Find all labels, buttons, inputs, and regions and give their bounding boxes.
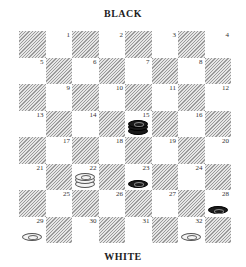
square-number: 1: [67, 31, 71, 39]
dark-square: [125, 190, 152, 217]
square-15[interactable]: 15: [125, 111, 152, 138]
square-number: 19: [169, 137, 176, 145]
black-piece[interactable]: [128, 164, 148, 190]
square-26[interactable]: 26: [99, 190, 126, 217]
square-number: 31: [143, 217, 150, 225]
dark-square: [125, 137, 152, 164]
square-10[interactable]: 10: [99, 84, 126, 111]
square-number: 8: [199, 58, 203, 66]
square-25[interactable]: 25: [46, 190, 73, 217]
square-17[interactable]: 17: [46, 137, 73, 164]
dark-square: [19, 137, 46, 164]
square-number: 6: [93, 58, 97, 66]
square-number: 26: [116, 190, 123, 198]
square-number: 13: [37, 111, 44, 119]
square-number: 21: [37, 164, 44, 172]
square-6[interactable]: 6: [72, 58, 99, 85]
dark-square: [205, 58, 232, 85]
square-29[interactable]: 29: [19, 217, 46, 244]
dark-square: [205, 217, 232, 244]
dark-square: [46, 217, 73, 244]
square-number: 24: [196, 164, 203, 172]
dark-square: [178, 190, 205, 217]
dark-square: [152, 217, 179, 244]
square-13[interactable]: 13: [19, 111, 46, 138]
square-number: 20: [222, 137, 229, 145]
dark-square: [72, 31, 99, 58]
square-8[interactable]: 8: [178, 58, 205, 85]
square-number: 9: [67, 84, 71, 92]
dark-square: [152, 111, 179, 138]
square-number: 7: [146, 58, 150, 66]
square-21[interactable]: 21: [19, 164, 46, 191]
square-11[interactable]: 11: [152, 84, 179, 111]
square-number: 27: [169, 190, 176, 198]
dark-square: [152, 58, 179, 85]
dark-square: [205, 111, 232, 138]
square-number: 2: [120, 31, 124, 39]
square-number: 11: [169, 84, 176, 92]
square-28[interactable]: 28: [205, 190, 232, 217]
square-number: 14: [90, 111, 97, 119]
square-number: 12: [222, 84, 229, 92]
dark-square: [125, 31, 152, 58]
square-1[interactable]: 1: [46, 31, 73, 58]
dark-square: [152, 164, 179, 191]
square-18[interactable]: 18: [99, 137, 126, 164]
dark-square: [99, 58, 126, 85]
square-number: 17: [63, 137, 70, 145]
square-19[interactable]: 19: [152, 137, 179, 164]
square-number: 25: [63, 190, 70, 198]
dark-square: [178, 84, 205, 111]
square-31[interactable]: 31: [125, 217, 152, 244]
dark-square: [72, 190, 99, 217]
dark-square: [72, 137, 99, 164]
square-23[interactable]: 23: [125, 164, 152, 191]
black-king[interactable]: [128, 111, 148, 137]
dark-square: [19, 84, 46, 111]
dark-square: [46, 111, 73, 138]
dark-square: [72, 84, 99, 111]
square-32[interactable]: 32: [178, 217, 205, 244]
dark-square: [99, 217, 126, 244]
square-27[interactable]: 27: [152, 190, 179, 217]
square-number: 18: [116, 137, 123, 145]
square-30[interactable]: 30: [72, 217, 99, 244]
square-number: 30: [90, 217, 97, 225]
square-9[interactable]: 9: [46, 84, 73, 111]
dark-square: [19, 31, 46, 58]
square-5[interactable]: 5: [19, 58, 46, 85]
dark-square: [19, 190, 46, 217]
square-2[interactable]: 2: [99, 31, 126, 58]
square-16[interactable]: 16: [178, 111, 205, 138]
square-number: 4: [226, 31, 230, 39]
square-14[interactable]: 14: [72, 111, 99, 138]
dark-square: [205, 164, 232, 191]
square-7[interactable]: 7: [125, 58, 152, 85]
square-20[interactable]: 20: [205, 137, 232, 164]
square-number: 16: [196, 111, 203, 119]
square-24[interactable]: 24: [178, 164, 205, 191]
dark-square: [99, 164, 126, 191]
square-22[interactable]: 22: [72, 164, 99, 191]
square-number: 3: [173, 31, 177, 39]
black-side-label: BLACK: [0, 8, 246, 19]
square-number: 10: [116, 84, 123, 92]
dark-square: [125, 84, 152, 111]
dark-square: [99, 111, 126, 138]
white-piece[interactable]: [22, 217, 42, 243]
square-12[interactable]: 12: [205, 84, 232, 111]
dark-square: [178, 31, 205, 58]
dark-square: [46, 164, 73, 191]
square-4[interactable]: 4: [205, 31, 232, 58]
dark-square: [178, 137, 205, 164]
dark-square: [46, 58, 73, 85]
black-piece[interactable]: [208, 190, 228, 216]
square-number: 5: [40, 58, 44, 66]
white-king[interactable]: [75, 164, 95, 190]
white-piece[interactable]: [181, 217, 201, 243]
checkers-board: 1234567891011121314151617181920212223242…: [19, 31, 231, 243]
square-3[interactable]: 3: [152, 31, 179, 58]
white-side-label: WHITE: [0, 251, 246, 262]
